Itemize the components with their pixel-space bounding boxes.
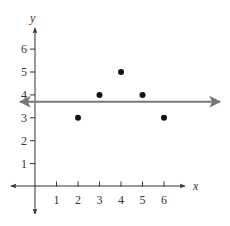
x-tick-label: 4 <box>118 193 124 207</box>
x-axis-label: x <box>192 179 199 193</box>
y-tick-label: 4 <box>21 88 27 102</box>
data-point <box>97 92 103 98</box>
x-tick-label: 6 <box>161 193 167 207</box>
data-point <box>161 115 167 121</box>
y-tick-label: 3 <box>21 111 27 125</box>
y-axis-ticks: 123456 <box>21 42 35 171</box>
data-point <box>140 92 146 98</box>
x-tick-label: 1 <box>54 193 60 207</box>
data-point <box>75 115 81 121</box>
y-tick-label: 5 <box>21 65 27 79</box>
data-point <box>118 69 124 75</box>
scatter-chart: 123456 123456 x y <box>0 0 230 226</box>
data-points <box>75 69 167 121</box>
y-tick-label: 6 <box>21 42 27 56</box>
x-tick-label: 5 <box>140 193 146 207</box>
x-tick-label: 2 <box>75 193 81 207</box>
y-tick-label: 1 <box>21 157 27 171</box>
y-axis-label: y <box>29 11 36 25</box>
x-tick-label: 3 <box>97 193 103 207</box>
y-tick-label: 2 <box>21 134 27 148</box>
x-axis-ticks: 123456 <box>54 182 168 207</box>
